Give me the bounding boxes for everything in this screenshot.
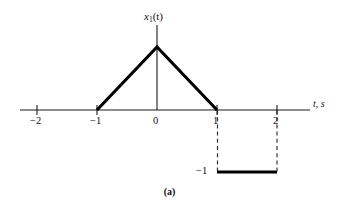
tick-label-two: 2 — [273, 116, 278, 127]
tick-label-neg-two: −2 — [30, 116, 42, 127]
tick-label-one: 1 — [213, 116, 218, 127]
signal-plot — [0, 0, 339, 210]
x-axis-label: t, s — [313, 99, 325, 109]
x-axis-label-unit: s — [321, 98, 325, 109]
figure-container: x1(t) t, s −2 −1 0 1 2 −1 (a) — [0, 0, 339, 210]
tick-label-amplitude-neg-one: −1 — [196, 166, 208, 177]
y-axis-label: x1(t) — [144, 11, 163, 24]
tick-label-zero: 0 — [153, 116, 158, 127]
tick-label-neg-one: −1 — [90, 116, 102, 127]
y-axis-label-arg: (t) — [153, 10, 163, 22]
x-axis-label-variable: t, — [313, 98, 318, 109]
figure-caption: (a) — [0, 187, 339, 197]
